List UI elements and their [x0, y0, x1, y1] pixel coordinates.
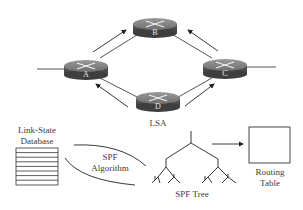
router-label-b: B	[152, 28, 157, 37]
router-label-d: D	[155, 102, 161, 111]
spf-tree-label: SPF Tree	[166, 189, 218, 200]
lsa-label: LSA	[136, 118, 180, 129]
router-b: B	[133, 18, 177, 38]
router-label-a: A	[83, 70, 89, 79]
arrow-a-to-b	[93, 30, 126, 52]
routing-table-box	[249, 127, 290, 163]
arrow-d-to-a	[96, 84, 128, 107]
router-a: A	[64, 60, 108, 80]
router-label-c: C	[222, 69, 227, 78]
spf-tree-icon	[152, 131, 236, 183]
router-c: C	[203, 59, 247, 79]
routing-table-label: Routing Table	[244, 167, 296, 189]
database-label: Link-State Database	[5, 125, 69, 147]
router-d: D	[136, 92, 180, 112]
database-table-icon	[16, 148, 58, 185]
arrow-d-to-c	[185, 84, 214, 106]
spf-algorithm-label: SPF Algorithm	[80, 152, 140, 174]
network-links	[100, 33, 212, 100]
arrow-c-to-b	[188, 30, 218, 51]
